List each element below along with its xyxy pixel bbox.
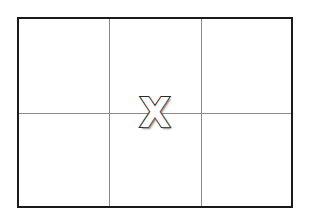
x-marker-glyph: X: [140, 93, 171, 133]
grid-cell-top-left[interactable]: [19, 19, 109, 113]
grid-cell-bottom-left[interactable]: [19, 113, 109, 206]
grid-cell-bottom-right[interactable]: [201, 113, 291, 206]
grid-cell-top-right[interactable]: [201, 19, 291, 113]
diagram-canvas: X: [0, 0, 309, 220]
